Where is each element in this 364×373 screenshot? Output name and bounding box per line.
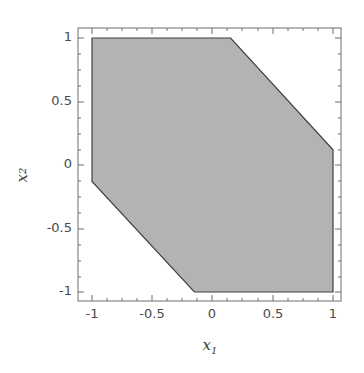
x-axis-label-subscript: 1	[211, 345, 217, 356]
y-tick-label: 1	[28, 29, 72, 44]
x-axis-label-text: x	[203, 336, 211, 354]
y-axis-label: x2	[10, 155, 34, 195]
y-tick-label: -1	[28, 283, 72, 298]
x-tick-label: 0.5	[250, 306, 296, 321]
x-axis-label: x1	[170, 336, 250, 356]
y-tick-label: -0.5	[28, 220, 72, 235]
y-tick-label: 0.5	[28, 93, 72, 108]
y-tick-label: 0	[28, 156, 72, 171]
x-tick-label: -1	[69, 306, 115, 321]
x-tick-label: 1	[310, 306, 356, 321]
y-axis-label-text: x	[13, 174, 31, 182]
y-axis-label-subscript: 2	[17, 168, 28, 174]
x-tick-label: -0.5	[129, 306, 175, 321]
x-tick-label: 0	[189, 306, 235, 321]
